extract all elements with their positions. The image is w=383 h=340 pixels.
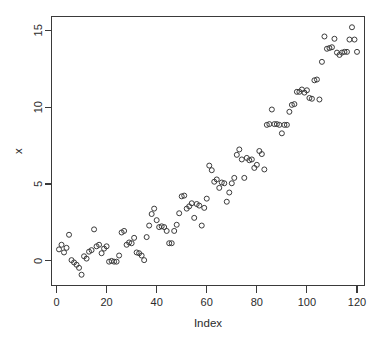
data-point <box>232 175 237 180</box>
x-axis-title: Index <box>194 317 222 329</box>
data-points-layer <box>57 25 360 277</box>
data-point <box>117 253 122 258</box>
x-axis-tick-labels: 020406080100120 <box>53 296 366 308</box>
data-point <box>269 107 274 112</box>
x-tick-label: 60 <box>201 296 213 308</box>
data-point <box>152 206 157 211</box>
data-point <box>142 258 147 263</box>
x-axis-ticks <box>57 286 357 293</box>
data-point <box>149 212 154 217</box>
data-point <box>332 36 337 41</box>
data-point <box>79 272 84 277</box>
y-tick-label: 10 <box>33 101 45 113</box>
data-point <box>349 25 354 30</box>
data-point <box>177 211 182 216</box>
y-tick-label: 15 <box>33 24 45 36</box>
data-point <box>67 232 72 237</box>
data-point <box>347 37 352 42</box>
x-tick-label: 20 <box>100 296 112 308</box>
data-point <box>144 235 149 240</box>
data-point <box>319 59 324 64</box>
data-point <box>174 222 179 227</box>
data-point <box>172 228 177 233</box>
data-point <box>287 109 292 114</box>
data-point <box>154 218 159 223</box>
x-tick-label: 0 <box>53 296 59 308</box>
x-tick-label: 100 <box>298 296 316 308</box>
data-point <box>59 242 64 247</box>
y-tick-label: 0 <box>33 258 45 264</box>
data-point <box>224 199 229 204</box>
data-point <box>242 175 247 180</box>
scatter-plot-figure: 020406080100120 051015 Index x <box>0 0 383 340</box>
data-point <box>209 168 214 173</box>
data-point <box>354 49 359 54</box>
data-point <box>352 37 357 42</box>
x-tick-label: 80 <box>251 296 263 308</box>
data-point <box>322 34 327 39</box>
data-point <box>262 167 267 172</box>
plot-canvas: 020406080100120 051015 Index x <box>0 0 383 340</box>
data-point <box>229 181 234 186</box>
data-point <box>227 190 232 195</box>
y-axis-tick-labels: 051015 <box>33 24 45 264</box>
data-point <box>317 97 322 102</box>
data-point <box>147 223 152 228</box>
data-point <box>64 245 69 250</box>
data-point <box>217 185 222 190</box>
x-tick-label: 120 <box>348 296 366 308</box>
data-point <box>192 215 197 220</box>
data-point <box>164 228 169 233</box>
data-point <box>204 196 209 201</box>
data-point <box>234 152 239 157</box>
data-point <box>92 227 97 232</box>
data-point <box>239 157 244 162</box>
y-tick-label: 5 <box>33 181 45 187</box>
data-point <box>237 147 242 152</box>
y-axis-ticks <box>45 30 52 261</box>
data-point <box>199 223 204 228</box>
x-tick-label: 40 <box>151 296 163 308</box>
data-point <box>132 235 137 240</box>
y-axis-title: x <box>12 148 24 154</box>
data-point <box>202 205 207 210</box>
data-point <box>279 131 284 136</box>
